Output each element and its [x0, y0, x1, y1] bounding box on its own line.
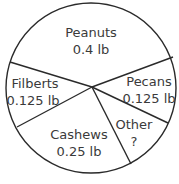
slice-peanuts-value: 0.4 lb: [73, 42, 110, 57]
pie-chart: Peanuts 0.4 lb Pecans 0.125 lb Other ? C…: [0, 0, 179, 184]
slice-other-value: ?: [131, 134, 138, 149]
slice-cashews-name: Cashews: [50, 127, 108, 142]
slice-pecans-name: Pecans: [126, 74, 172, 89]
slice-filberts-value: 0.125 lb: [6, 93, 59, 108]
slice-pecans-value: 0.125 lb: [122, 91, 175, 106]
slice-peanuts-name: Peanuts: [65, 25, 117, 40]
slice-cashews-value: 0.25 lb: [57, 144, 102, 159]
slice-other-name: Other: [116, 117, 154, 132]
slice-filberts-name: Filberts: [11, 76, 58, 91]
